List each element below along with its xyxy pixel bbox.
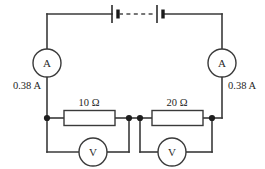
resistor-left-box [64,111,115,126]
voltmeter-left-symbol: V [89,146,97,158]
ammeter-left-symbol: A [43,57,51,69]
resistor-left[interactable] [64,111,115,126]
voltmeter-left[interactable]: V [79,138,107,166]
voltmeter-right[interactable]: V [158,138,186,166]
main-loop-wires [47,14,222,118]
ammeter-right-reading: 0.38 A [228,80,256,91]
battery [112,5,163,23]
junction-dot-mid-left [126,115,132,121]
resistor-left-label: 10 Ω [79,97,100,108]
ammeter-right-symbol: A [218,57,226,69]
ammeter-left-reading: 0.38 A [13,80,41,91]
junction-dot-left [44,115,50,121]
resistor-right-label: 20 Ω [167,97,188,108]
voltmeter-right-symbol: V [168,146,176,158]
ammeter-left[interactable]: A [33,49,61,77]
ammeter-right[interactable]: A [208,49,236,77]
resistor-right-box [152,111,203,126]
junction-dot-mid-right [137,115,143,121]
junction-dot-right [209,115,215,121]
circuit-diagram: A 0.38 A A 0.38 A 10 Ω 20 Ω V [0,0,265,169]
resistor-right[interactable] [152,111,203,126]
